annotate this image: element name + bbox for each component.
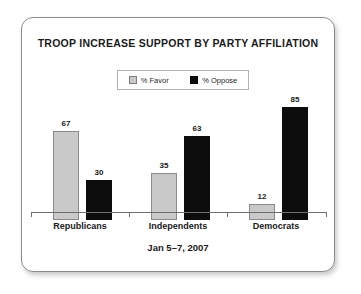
bar-value-independents-oppose: 63: [184, 124, 210, 133]
bar-republicans-oppose: [86, 180, 112, 220]
chart-title: TROOP INCREASE SUPPORT BY PARTY AFFILIAT…: [22, 37, 334, 49]
bar-group-democrats: 12 85: [249, 86, 311, 220]
footer-date-note: Jan 5–7, 2007: [22, 242, 334, 253]
category-label-republicans: Republicans: [35, 221, 125, 231]
bar-group-independents: 35 63: [151, 86, 213, 220]
category-label-democrats: Democrats: [231, 221, 321, 231]
bar-value-democrats-favor: 12: [249, 192, 275, 201]
bar-value-republicans-oppose: 30: [86, 168, 112, 177]
bar-republicans-favor: [53, 131, 79, 220]
bar-group-republicans: 67 30: [53, 86, 115, 220]
plot-area: 67 30 35 63 12 85: [31, 78, 327, 220]
bar-value-democrats-oppose: 85: [282, 95, 308, 104]
axis-tick-end: [326, 213, 327, 217]
x-axis-line: [31, 212, 327, 213]
bar-value-republicans-favor: 67: [53, 119, 79, 128]
chart-card: TROOP INCREASE SUPPORT BY PARTY AFFILIAT…: [21, 17, 335, 272]
bar-democrats-oppose: [282, 107, 308, 220]
bar-value-independents-favor: 35: [151, 161, 177, 170]
axis-tick-2: [227, 213, 228, 217]
bar-independents-oppose: [184, 136, 210, 220]
axis-tick-start: [31, 213, 32, 217]
axis-tick-1: [129, 213, 130, 217]
category-label-independents: Independents: [133, 221, 223, 231]
